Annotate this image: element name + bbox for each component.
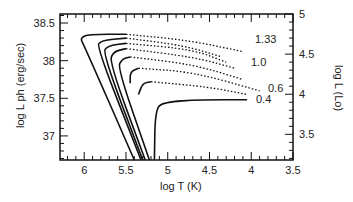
track-dotted [126,38,222,57]
track-dotted [126,49,235,69]
chart: 65.554.543.53737.53838.53.544.55 log T (… [0,0,353,202]
x-tick-label: 5.5 [118,164,133,176]
curve-label-1.33: 1.33 [255,33,276,45]
track-solid [154,100,247,160]
y-right-tick-label: 5 [299,8,305,20]
y-right-tick-label: 4 [299,88,305,100]
x-tick-label: 6 [81,164,87,176]
y-right-tick-label: 4.5 [299,48,314,60]
x-tick-label: 4.5 [202,164,217,176]
track-solid [139,82,152,95]
y-tick-label: 38 [43,55,55,67]
track-solid [111,49,145,160]
x-tick-label: 4 [248,164,254,176]
evolutionary-tracks [81,34,259,160]
track-solid [81,34,134,160]
curve-label-1.0: 1.0 [251,56,266,68]
track-dotted [139,68,260,91]
y-tick-label: 38.5 [34,17,55,29]
y-tick-label: 37.5 [34,92,55,104]
curve-label-0.4: 0.4 [256,93,271,105]
track-dotted [130,57,243,80]
x-tick-label: 5 [165,164,171,176]
y-axis-right-label: log L (Lo) [333,65,345,111]
track-dotted [126,43,226,62]
y-right-tick-label: 3.5 [299,128,314,140]
y-tick-label: 37 [43,130,55,142]
x-axis-label: log T (K) [160,180,202,192]
x-tick-label: 3.5 [285,164,300,176]
track-solid [130,68,138,83]
track-dotted [126,34,243,51]
y-axis-label: log L ph (erg/sec) [14,43,26,128]
